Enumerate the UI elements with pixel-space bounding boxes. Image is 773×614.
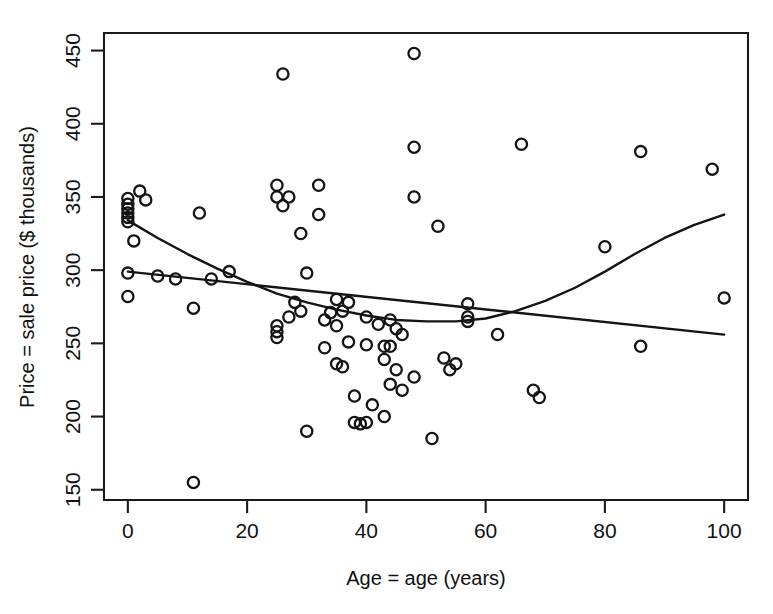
data-point — [194, 207, 205, 218]
data-point — [128, 235, 139, 246]
data-point — [385, 379, 396, 390]
fitted-curve-quadratic-fit — [128, 215, 724, 322]
data-point — [528, 385, 539, 396]
fitted-curve-group — [128, 215, 724, 335]
data-point — [373, 319, 384, 330]
data-point — [343, 297, 354, 308]
y-tick-label: 450 — [61, 33, 84, 68]
data-point — [188, 477, 199, 488]
data-point — [408, 191, 419, 202]
data-point — [397, 385, 408, 396]
data-point — [283, 191, 294, 202]
y-tick-label: 300 — [61, 253, 84, 288]
x-tick-label: 80 — [593, 519, 616, 542]
data-point — [516, 139, 527, 150]
data-point — [295, 306, 306, 317]
data-point — [319, 314, 330, 325]
data-point — [432, 221, 443, 232]
data-point — [313, 209, 324, 220]
data-point — [719, 292, 730, 303]
x-tick-label: 60 — [474, 519, 497, 542]
y-tick-label: 150 — [61, 472, 84, 507]
y-tick-label: 250 — [61, 326, 84, 361]
y-tick-label: 400 — [61, 106, 84, 141]
data-point — [122, 291, 133, 302]
plot-canvas: 020406080100 150200250300350400450 Age =… — [0, 0, 773, 614]
y-tick-label: 350 — [61, 179, 84, 214]
data-point — [361, 339, 372, 350]
x-axis-title: Age = age (years) — [346, 567, 506, 589]
y-axis-ticks — [91, 51, 104, 490]
data-point — [319, 342, 330, 353]
x-tick-label: 0 — [122, 519, 134, 542]
data-point — [379, 354, 390, 365]
data-point — [635, 341, 646, 352]
data-point — [277, 68, 288, 79]
data-point — [140, 194, 151, 205]
data-point — [379, 411, 390, 422]
x-axis-tick-labels: 020406080100 — [122, 519, 742, 542]
fitted-curve-linear-fit — [128, 272, 724, 335]
y-axis-title: Price = sale price ($ thousands) — [16, 126, 38, 408]
data-point — [599, 241, 610, 252]
data-point — [391, 364, 402, 375]
data-point — [367, 399, 378, 410]
data-point — [408, 142, 419, 153]
data-point — [408, 371, 419, 382]
data-point — [343, 336, 354, 347]
x-axis-ticks — [128, 500, 724, 513]
scatter-plot-figure: 020406080100 150200250300350400450 Age =… — [0, 0, 773, 614]
y-axis-tick-labels: 150200250300350400450 — [61, 33, 84, 507]
x-tick-label: 40 — [355, 519, 378, 542]
data-point — [331, 320, 342, 331]
plot-frame — [104, 33, 748, 500]
data-point — [188, 303, 199, 314]
data-point — [707, 164, 718, 175]
data-point — [426, 433, 437, 444]
data-point — [438, 352, 449, 363]
data-point — [283, 311, 294, 322]
data-point — [301, 426, 312, 437]
data-point — [408, 48, 419, 59]
data-point — [635, 146, 646, 157]
data-point — [170, 273, 181, 284]
y-tick-label: 200 — [61, 399, 84, 434]
data-point — [492, 329, 503, 340]
x-tick-label: 100 — [707, 519, 742, 542]
data-point — [534, 392, 545, 403]
data-point — [301, 267, 312, 278]
data-point — [331, 294, 342, 305]
data-point — [313, 180, 324, 191]
data-point — [349, 390, 360, 401]
data-point — [295, 228, 306, 239]
x-tick-label: 20 — [235, 519, 258, 542]
data-point — [271, 180, 282, 191]
